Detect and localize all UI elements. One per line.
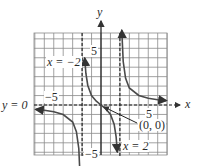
asymptote-horizontal-label: y = 0 — [1, 99, 28, 111]
tick-label-x-neg5: −5 — [44, 91, 59, 103]
tick-label-y-neg5: −5 — [84, 148, 99, 160]
axes — [34, 21, 180, 155]
right-branch-curve — [122, 30, 166, 100]
origin-pointer-arrow — [104, 107, 137, 123]
asymptote-right-label: x = 2 — [122, 140, 149, 152]
left-branch-curve — [36, 109, 80, 166]
graph-canvas — [0, 0, 197, 166]
y-axis-label: y — [96, 6, 103, 18]
x-axis-label: x — [184, 98, 191, 110]
origin-point-label: (0, 0) — [138, 119, 166, 131]
asymptote-left-label: x = −2 — [46, 56, 82, 68]
tick-label-y-5: 5 — [90, 45, 98, 57]
